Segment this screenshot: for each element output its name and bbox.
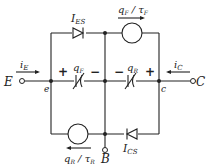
current-source-reverse-icon xyxy=(68,124,88,144)
cap-left-minus: − xyxy=(90,65,100,79)
cap-right-minus: − xyxy=(114,65,124,79)
current-source-forward-icon xyxy=(122,23,142,43)
node-e-dot xyxy=(49,79,53,83)
label-c: c xyxy=(161,84,166,94)
label-ic: iC xyxy=(174,59,183,72)
cap-right-plus: + xyxy=(145,65,155,79)
circuit-diagram: E C B e c iE iC IES ICS qF / τF qR / τR … xyxy=(0,0,206,166)
label-E: E xyxy=(3,75,13,89)
diode-ics-icon xyxy=(124,128,138,140)
node-mid-dot xyxy=(103,79,107,83)
label-qf-tauf: qF / τF xyxy=(118,4,149,16)
label-ics: ICS xyxy=(122,142,138,156)
diode-ies-icon xyxy=(72,27,86,39)
terminal-e[interactable] xyxy=(20,79,25,84)
label-C: C xyxy=(196,75,205,89)
label-e: e xyxy=(44,84,49,94)
label-qf: qF xyxy=(73,62,84,74)
label-ies: IES xyxy=(70,12,85,26)
arrow-qr-icon xyxy=(66,146,91,150)
cap-left-plus: + xyxy=(58,65,68,79)
label-B: B xyxy=(100,152,110,166)
node-bottom-dot xyxy=(103,132,107,136)
label-qr: qR xyxy=(127,62,138,74)
arrow-qf-icon xyxy=(118,16,145,20)
capacitor-qf-icon xyxy=(73,73,84,89)
node-top-dot xyxy=(103,31,107,35)
node-c-dot xyxy=(157,79,161,83)
capacitor-qr-icon xyxy=(125,73,136,89)
label-ie: iE xyxy=(20,59,28,72)
terminal-c[interactable] xyxy=(191,79,196,84)
label-qr-taur: qR / τR xyxy=(64,153,95,165)
